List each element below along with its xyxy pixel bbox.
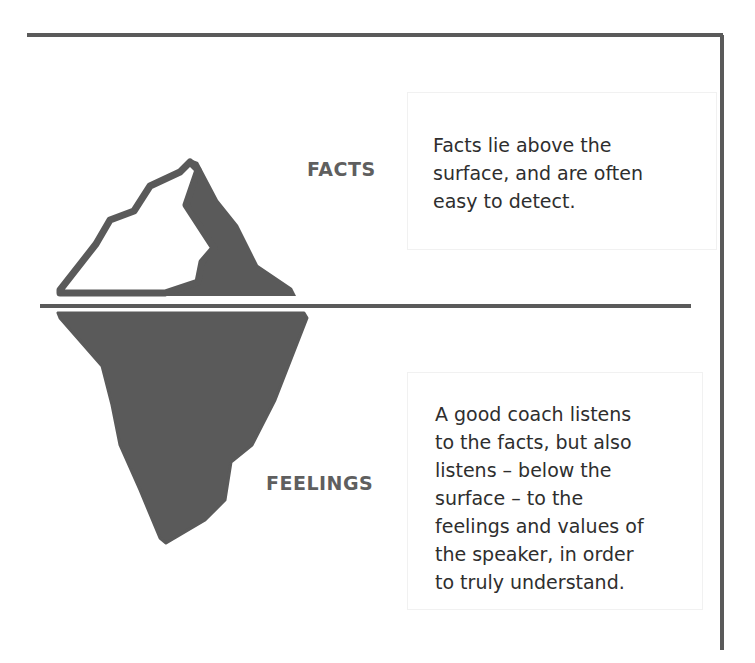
feelings-text-line: surface – to the	[435, 484, 692, 512]
iceberg-above-water	[60, 159, 296, 296]
facts-description-box: Facts lie above the surface, and are oft…	[407, 92, 717, 250]
feelings-text-line: listens – below the	[435, 456, 692, 484]
feelings-text-line: feelings and values of	[435, 512, 692, 540]
feelings-label: FEELINGS	[266, 472, 373, 494]
facts-label: FACTS	[307, 158, 376, 180]
facts-text-line: easy to detect.	[433, 187, 696, 215]
waterline	[40, 304, 691, 308]
feelings-text-line: the speaker, in order	[435, 540, 692, 568]
iceberg-below-water	[58, 313, 307, 543]
facts-text-line: Facts lie above the	[433, 131, 696, 159]
feelings-text-line: to the facts, but also	[435, 428, 692, 456]
facts-text-line: surface, and are often	[433, 159, 696, 187]
feelings-text-line: A good coach listens	[435, 400, 692, 428]
feelings-text-line: to truly understand.	[435, 568, 692, 596]
feelings-description-box: A good coach listens to the facts, but a…	[407, 372, 703, 610]
iceberg-tip-outline	[60, 162, 214, 293]
